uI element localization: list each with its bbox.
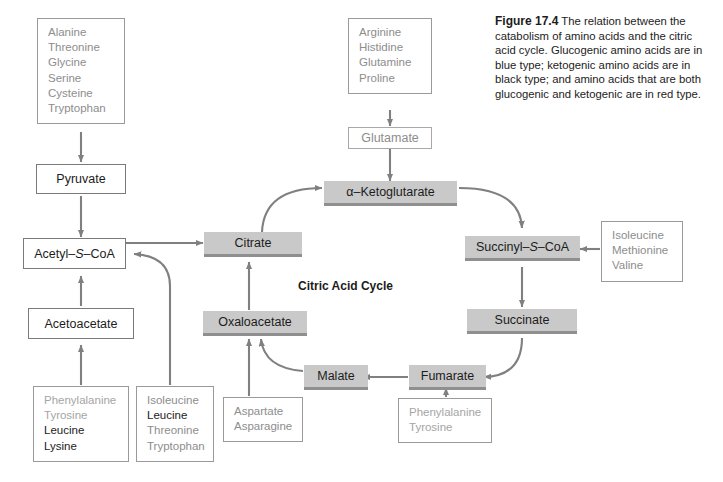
acetyl-prefix: Acetyl– — [34, 247, 75, 261]
node-fumarate: Fumarate — [409, 365, 486, 390]
node-acetyl-s-coa-label: Acetyl–S–CoA — [34, 247, 115, 261]
aminoacid-label: Cysteine — [48, 86, 115, 101]
node-malate: Malate — [304, 365, 368, 390]
aminoacid-box-oxaloacetate-precursors: Aspartate Asparagine — [223, 397, 303, 442]
node-citrate-label: Citrate — [235, 236, 272, 250]
connector-aminoacids-to-acetylcoa-curve — [134, 254, 170, 385]
node-acetyl-s-coa: Acetyl–S–CoA — [23, 238, 126, 269]
node-fumarate-label: Fumarate — [421, 369, 475, 383]
acetyl-suffix: –CoA — [84, 247, 115, 261]
aminoacid-label: Threonine — [147, 423, 204, 438]
aminoacid-label: Phenylalanine — [409, 405, 482, 420]
aminoacid-label: Isoleucine — [612, 228, 673, 243]
node-glutamate-label: Glutamate — [361, 131, 419, 145]
succinyl-suffix: –CoA — [538, 240, 569, 254]
aminoacid-label: Glutamine — [359, 55, 422, 70]
aminoacid-label: Tryptophan — [147, 439, 204, 454]
acetyl-s-italic: S — [75, 247, 83, 261]
aminoacid-label: Leucine — [147, 408, 204, 423]
node-alpha-ketoglutarate: α–Ketoglutarate — [324, 181, 457, 206]
figure-label: Figure 17.4 — [495, 14, 558, 28]
aminoacid-label: Tryptophan — [48, 101, 115, 116]
aminoacid-box-pyruvate-precursors: Alanine Threonine Glycine Serine Cystein… — [37, 18, 125, 124]
aminoacid-label: Leucine — [44, 423, 119, 438]
node-glutamate: Glutamate — [348, 127, 432, 149]
figure-caption: Figure 17.4 The relation between the cat… — [495, 14, 713, 102]
succinyl-s-italic: S — [529, 240, 537, 254]
aminoacid-label: Serine — [48, 71, 115, 86]
aminoacid-label: Glycine — [48, 55, 115, 70]
node-acetoacetate: Acetoacetate — [28, 308, 134, 339]
aminoacid-label: Phenylalanine — [44, 393, 119, 408]
aminoacid-label: Threonine — [48, 40, 115, 55]
connector-malate-to-oxaloacetate — [261, 339, 303, 371]
aminoacid-box-acetoacetate-precursors: Phenylalanine Tyrosine Leucine Lysine — [33, 386, 129, 462]
node-succinate: Succinate — [467, 309, 577, 334]
node-pyruvate-label: Pyruvate — [56, 172, 105, 186]
aminoacid-label: Proline — [359, 71, 422, 86]
aminoacid-label: Alanine — [48, 25, 115, 40]
aminoacid-label: Tyrosine — [409, 420, 482, 435]
aminoacid-box-fumarate-precursors: Phenylalanine Tyrosine — [398, 398, 492, 443]
node-pyruvate: Pyruvate — [36, 164, 126, 194]
aminoacid-label: Asparagine — [234, 419, 293, 434]
aminoacid-label: Lysine — [44, 439, 119, 454]
node-succinyl-s-coa: Succinyl–S–CoA — [465, 236, 580, 261]
node-succinyl-s-coa-label: Succinyl–S–CoA — [476, 240, 569, 254]
aminoacid-box-acetylcoa-precursors: Isoleucine Leucine Threonine Tryptophan — [136, 386, 214, 462]
aminoacid-label: Arginine — [359, 25, 422, 40]
aminoacid-box-succinylcoa-precursors: Isoleucine Methionine Valine — [601, 221, 683, 282]
succinyl-prefix: Succinyl– — [476, 240, 530, 254]
aminoacid-label: Histidine — [359, 40, 422, 55]
node-oxaloacetate: Oxaloacetate — [203, 311, 307, 336]
figure-canvas: Alanine Threonine Glycine Serine Cystein… — [0, 0, 723, 482]
connector-citrate-to-ketoglutarate — [262, 188, 322, 232]
aminoacid-box-glutamate-precursors: Arginine Histidine Glutamine Proline — [348, 18, 432, 94]
aminoacid-label: Tyrosine — [44, 408, 119, 423]
node-alpha-ketoglutarate-label: α–Ketoglutarate — [346, 185, 435, 199]
connector-succinate-to-fumarate — [484, 338, 522, 377]
cycle-title: Citric Acid Cycle — [298, 279, 393, 293]
node-oxaloacetate-label: Oxaloacetate — [218, 315, 292, 329]
aminoacid-label: Methionine — [612, 243, 673, 258]
aminoacid-label: Isoleucine — [147, 393, 204, 408]
node-succinate-label: Succinate — [495, 313, 550, 327]
node-malate-label: Malate — [317, 369, 355, 383]
node-acetoacetate-label: Acetoacetate — [45, 317, 118, 331]
connector-ketoglutarate-to-succinylcoa — [459, 188, 522, 228]
node-citrate: Citrate — [204, 232, 302, 257]
aminoacid-label: Valine — [612, 258, 673, 273]
aminoacid-label: Aspartate — [234, 404, 293, 419]
